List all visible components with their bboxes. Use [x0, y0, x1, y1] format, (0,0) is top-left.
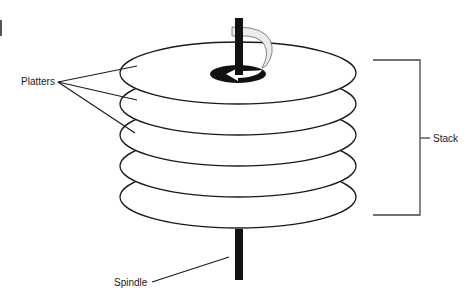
edge-mark	[0, 20, 2, 36]
spindle-label: Spindle	[114, 277, 148, 288]
stack-label: Stack	[433, 133, 459, 144]
bracket-line	[373, 60, 420, 215]
platters-label: Platters	[21, 76, 55, 87]
spindle-overlap	[235, 26, 243, 38]
diagram-canvas: Platters Stack Spindle	[0, 0, 476, 301]
platter-stack-diagram: Platters Stack Spindle	[0, 0, 476, 301]
spindle-bottom	[235, 229, 243, 280]
spindle-leader	[152, 257, 229, 282]
leader-platter-2	[58, 82, 137, 100]
stack-bracket	[373, 60, 430, 215]
